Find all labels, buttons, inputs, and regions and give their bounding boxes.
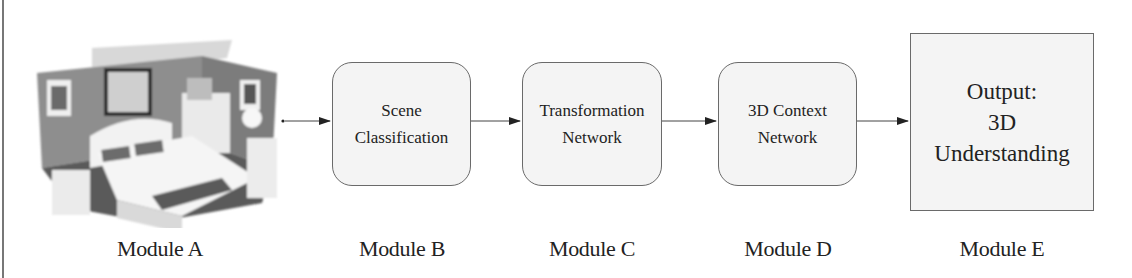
module-b-line-1: Scene [381, 97, 422, 124]
module-c-line-2: Network [562, 124, 621, 151]
module-b-box: Scene Classification [332, 62, 471, 186]
module-e-line-2: 3D [988, 107, 1016, 138]
module-c-line-1: Transformation [539, 97, 644, 124]
module-e-label: Module E [960, 236, 1045, 262]
module-e-line-3: Understanding [934, 138, 1069, 169]
module-d-label: Module D [744, 236, 831, 262]
arrow-start-dot [281, 119, 284, 122]
module-b-label: Module B [359, 236, 445, 262]
module-c-box: Transformation Network [522, 62, 662, 186]
module-b-line-2: Classification [355, 124, 448, 151]
module-e-box: Output: 3D Understanding [910, 33, 1094, 211]
module-e-line-1: Output: [967, 76, 1037, 107]
module-d-box: 3D Context Network [718, 62, 857, 186]
module-d-line-1: 3D Context [748, 97, 827, 124]
module-c-label: Module C [549, 236, 635, 262]
module-d-line-2: Network [758, 124, 817, 151]
module-a-label: Module A [117, 236, 203, 262]
